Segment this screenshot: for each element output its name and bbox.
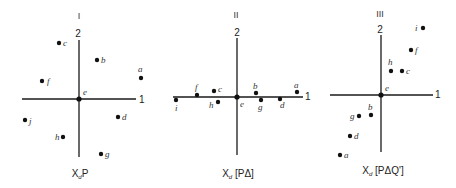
point-e bbox=[378, 92, 383, 97]
point-e bbox=[234, 94, 239, 99]
point-e bbox=[76, 96, 81, 101]
point-g bbox=[357, 114, 361, 118]
point-label-b: b bbox=[101, 55, 106, 65]
point-b bbox=[369, 113, 373, 117]
diagram-canvas: I 2 1 a b c d e f g h j XdP II 2 1 a b bbox=[0, 0, 456, 188]
point-label-f: f bbox=[195, 82, 199, 92]
point-label-h: h bbox=[388, 57, 393, 67]
point-label-d: d bbox=[122, 112, 127, 122]
point-label-f: f bbox=[47, 76, 51, 86]
point-label-b: b bbox=[253, 81, 258, 91]
panel-iii-roman: III bbox=[376, 9, 384, 19]
point-label-e: e bbox=[385, 83, 389, 93]
point-i bbox=[421, 26, 425, 30]
point-c bbox=[400, 69, 404, 73]
point-d bbox=[348, 134, 352, 138]
point-a bbox=[338, 153, 342, 157]
panel-iii: III 2 1 a b c d e f g h i Xd [PΔQ'] bbox=[330, 9, 441, 177]
point-a bbox=[139, 76, 143, 80]
point-j bbox=[23, 118, 27, 122]
panel-ii-caption: Xd [PΔ] bbox=[222, 168, 254, 180]
point-g bbox=[99, 152, 103, 156]
point-label-a: a bbox=[344, 150, 349, 160]
point-f bbox=[409, 48, 413, 52]
point-c bbox=[212, 89, 216, 93]
point-label-e: e bbox=[83, 87, 87, 97]
point-label-e: e bbox=[240, 99, 244, 109]
panel-ii-axis-1-label: 1 bbox=[305, 91, 311, 102]
point-label-f: f bbox=[415, 45, 419, 55]
point-label-c: c bbox=[406, 66, 410, 76]
panel-ii-roman: II bbox=[233, 10, 238, 20]
point-label-a: a bbox=[294, 80, 299, 90]
point-f bbox=[195, 93, 199, 97]
point-b bbox=[254, 91, 258, 95]
point-h bbox=[389, 69, 393, 73]
point-f bbox=[40, 79, 44, 83]
point-d bbox=[116, 115, 120, 119]
panel-i-axis-2-label: 2 bbox=[75, 28, 81, 39]
point-label-d: d bbox=[354, 131, 359, 141]
panel-iii-axis-1-label: 1 bbox=[435, 89, 441, 100]
point-label-i: i bbox=[415, 23, 418, 33]
point-label-a: a bbox=[138, 64, 143, 74]
point-label-c: c bbox=[218, 84, 222, 94]
point-c bbox=[57, 41, 61, 45]
panel-i-caption: XdP bbox=[72, 168, 89, 180]
point-label-j: j bbox=[28, 116, 32, 126]
panel-ii: II 2 1 a b c d e f g h i Xd [PΔ] bbox=[173, 10, 311, 180]
point-label-c: c bbox=[63, 38, 67, 48]
point-label-h: h bbox=[55, 132, 60, 142]
point-h bbox=[216, 100, 220, 104]
point-label-i: i bbox=[175, 103, 178, 113]
point-label-g: g bbox=[350, 111, 355, 121]
panel-iii-caption: Xd [PΔQ'] bbox=[362, 165, 404, 177]
point-b bbox=[95, 58, 99, 62]
point-label-h: h bbox=[209, 100, 214, 110]
point-label-d: d bbox=[280, 100, 285, 110]
panel-i-roman: I bbox=[78, 11, 81, 21]
point-label-g: g bbox=[105, 149, 110, 159]
point-label-g: g bbox=[258, 102, 263, 112]
point-i bbox=[174, 98, 178, 102]
point-a bbox=[295, 90, 299, 94]
point-label-b: b bbox=[368, 102, 373, 112]
panel-i-axis-1-label: 1 bbox=[139, 94, 145, 105]
point-h bbox=[61, 135, 65, 139]
panel-ii-axis-2-label: 2 bbox=[234, 27, 240, 38]
panel-iii-axis-2-label: 2 bbox=[377, 24, 383, 35]
panel-i: I 2 1 a b c d e f g h j XdP bbox=[22, 11, 145, 180]
